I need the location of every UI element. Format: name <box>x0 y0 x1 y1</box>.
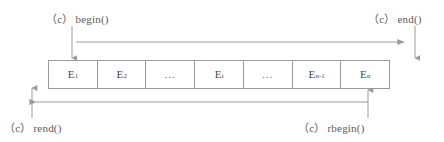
label-rbegin-name: rbegin() <box>327 122 364 134</box>
label-begin-name: begin() <box>75 13 108 25</box>
label-end-name: end() <box>397 13 421 25</box>
label-begin: （c）begin() <box>46 10 109 26</box>
iterator-diagram: （c）begin() （c）end() （c）rend() （c）rbegin(… <box>0 0 444 142</box>
label-rend-prefix: （c） <box>4 122 31 134</box>
container-cell: En <box>341 61 389 88</box>
cell-subscript: 2 <box>123 73 127 80</box>
cell-subscript: i <box>222 73 224 80</box>
label-rend: （c）rend() <box>4 119 62 135</box>
container-cell: E1 <box>49 61 98 88</box>
cell-base: E <box>116 69 123 80</box>
cell-base: E <box>308 69 315 80</box>
cell-subscript: n-1 <box>315 73 324 80</box>
label-rbegin-prefix: （c） <box>298 122 325 134</box>
container-cell: Ei <box>195 61 244 88</box>
cell-base: E <box>215 69 222 80</box>
container-cell: En-1 <box>293 61 342 88</box>
cell-base: E <box>360 69 367 80</box>
container-cell-ellipsis: … <box>244 61 293 88</box>
label-rend-name: rend() <box>33 122 61 134</box>
label-end: （c）end() <box>368 10 422 26</box>
cell-ellipsis-text: … <box>164 69 176 80</box>
container-cell-ellipsis: … <box>146 61 195 88</box>
container-cell: E2 <box>98 61 147 88</box>
cell-subscript: n <box>367 73 371 80</box>
label-end-prefix: （c） <box>368 13 395 25</box>
label-rbegin: （c）rbegin() <box>298 119 365 135</box>
label-begin-prefix: （c） <box>46 13 73 25</box>
container-cells: E1 E2 … Ei … En-1 En <box>48 60 390 89</box>
cell-base: E <box>68 69 75 80</box>
cell-subscript: 1 <box>75 73 79 80</box>
cell-ellipsis-text: … <box>262 69 274 80</box>
